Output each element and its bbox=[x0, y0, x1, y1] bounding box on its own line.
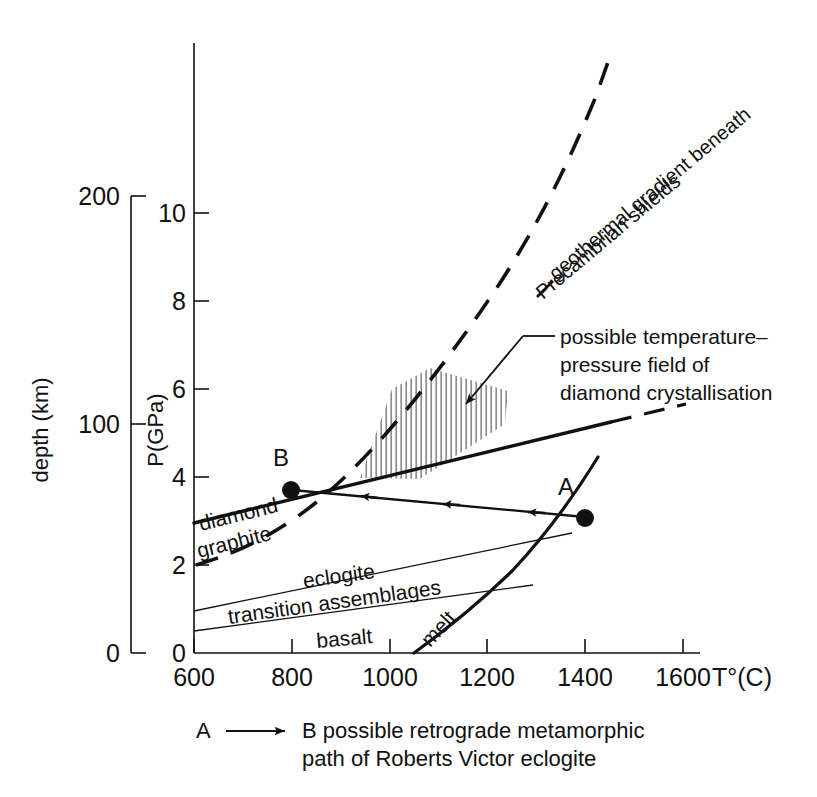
temperature-tick-label-1200: 1200 bbox=[459, 663, 515, 691]
temperature-tick-label-1400: 1400 bbox=[557, 663, 613, 691]
depth-tick-label-200: 200 bbox=[78, 182, 120, 210]
caption-from-label: A bbox=[196, 718, 211, 743]
callout-label-line-2: pressure field of bbox=[560, 353, 710, 376]
callout-label-line-1: possible temperature– bbox=[560, 325, 768, 348]
pressure-tick-label-8: 8 bbox=[172, 287, 186, 315]
pressure-tick-label-10: 10 bbox=[158, 199, 186, 227]
pressure-temperature-diagram: 200 100 0 depth (km) 10 8 6 4 2 0 P(GPa) bbox=[0, 0, 817, 797]
pressure-axis-title: P(GPa) bbox=[143, 393, 168, 466]
retrograde-arrow-1 bbox=[528, 512, 545, 513]
data-point-B bbox=[282, 481, 300, 499]
depth-axis-title: depth (km) bbox=[28, 377, 53, 482]
data-point-label-A: A bbox=[558, 473, 574, 500]
pressure-tick-label-6: 6 bbox=[172, 375, 186, 403]
pressure-tick-label-4: 4 bbox=[172, 463, 186, 491]
pressure-tick-label-2: 2 bbox=[172, 551, 186, 579]
data-point-label-B: B bbox=[273, 444, 289, 471]
temperature-axis-title: T°(C) bbox=[712, 663, 772, 691]
caption-line-1: B possible retrograde metamorphic bbox=[302, 718, 644, 743]
callout-label-line-3: diamond crystallisation bbox=[560, 381, 772, 404]
temperature-tick-label-600: 600 bbox=[173, 663, 215, 691]
depth-tick-label-100: 100 bbox=[78, 410, 120, 438]
data-point-A bbox=[576, 509, 594, 527]
retrograde-arrow-2 bbox=[443, 504, 460, 505]
temperature-tick-label-1000: 1000 bbox=[362, 663, 418, 691]
diagram-canvas: 200 100 0 depth (km) 10 8 6 4 2 0 P(GPa) bbox=[0, 0, 817, 797]
temperature-tick-label-800: 800 bbox=[271, 663, 313, 691]
caption-line-2: path of Roberts Victor eclogite bbox=[302, 746, 596, 771]
field-label-basalt: basalt bbox=[315, 624, 373, 652]
depth-tick-label-0: 0 bbox=[106, 639, 120, 667]
temperature-tick-label-1600: 1600 bbox=[655, 663, 711, 691]
